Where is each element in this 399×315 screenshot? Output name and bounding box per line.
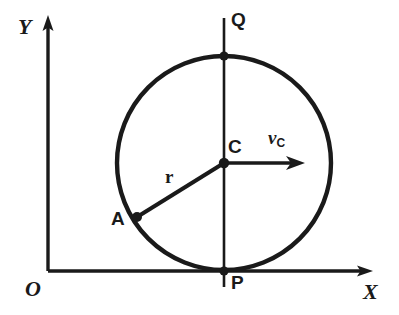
x-axis-label: X (363, 281, 378, 303)
y-axis-label: Y (18, 16, 31, 38)
point-marker-P (219, 266, 228, 275)
velocity-vector-vc (224, 156, 305, 170)
point-marker-C (219, 158, 229, 168)
point-label-c: C (228, 137, 242, 156)
point-marker-Q (219, 51, 228, 60)
point-label-q: Q (231, 10, 246, 29)
radius-segment-CA (137, 163, 224, 217)
point-marker-A (132, 212, 142, 222)
velocity-vector-label: vC (268, 128, 285, 147)
velocity-subscript: C (276, 136, 285, 150)
figure-canvas: Y X O Q P C A r vC (0, 0, 399, 315)
radius-label: r (165, 167, 173, 186)
y-axis (43, 15, 54, 271)
point-label-p: P (231, 273, 244, 292)
point-label-a: A (111, 209, 125, 228)
origin-label: O (25, 278, 41, 300)
geometry-diagram (0, 0, 399, 315)
